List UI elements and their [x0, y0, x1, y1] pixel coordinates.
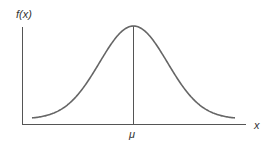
normal-distribution-chart: f(x) x μ — [0, 0, 271, 143]
y-axis-label: f(x) — [16, 8, 32, 20]
mean-label: μ — [128, 128, 135, 140]
x-axis-label: x — [253, 119, 260, 131]
